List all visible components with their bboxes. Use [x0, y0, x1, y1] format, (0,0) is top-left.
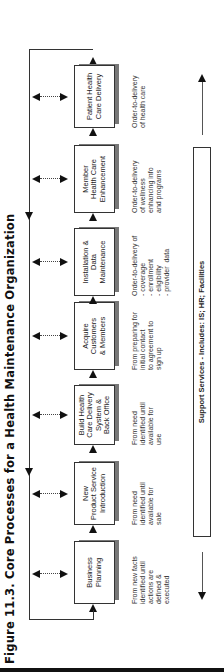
flow-arrow-icon [89, 370, 97, 378]
process-description: From need identified until available for… [131, 482, 163, 525]
support-left-arrow-line [202, 552, 203, 592]
flow-arrow-icon [89, 525, 97, 533]
feedback-loop-top [29, 49, 30, 620]
process-description: From new facts identified until actions … [131, 556, 171, 604]
support-services-box: Support Services - Includes: IS; HR; Fac… [193, 147, 211, 537]
process-description: Order-to-delivery of wellness enhancing … [131, 160, 163, 213]
support-right-arrow-icon [198, 74, 206, 82]
loop-entry-line [93, 610, 94, 620]
process-patient-health-care-delivery: Patient HealthCare Delivery [74, 65, 115, 128]
diagram-canvas: Figure 11.3. Core Processes for a Health… [0, 0, 224, 672]
process-description: From preparing for initial contact to ag… [131, 312, 163, 370]
process-build-health-care-delivery: Build HealthCare DeliverySystem &Back Of… [74, 385, 115, 445]
loop-direction-arrow-icon [25, 468, 33, 476]
feedback-loop-left [29, 619, 93, 620]
process-description: Order-to-delivery of health care [131, 75, 147, 128]
flow-arrow-icon [89, 128, 97, 136]
process-installation-data-maintenance: Installation &DataMaintenance [74, 228, 115, 296]
process-description: Order-to-delivery of - coverage - enroll… [131, 236, 171, 296]
process-new-product-service-introduction: NewProduct ServiceIntroduction [74, 462, 115, 525]
support-right-arrow-line [202, 80, 203, 135]
loop-direction-arrow-icon [25, 212, 33, 220]
process-acquire-customers-members: AcquireCustomers& Members [74, 302, 115, 370]
flow-arrow-icon [89, 213, 97, 221]
process-member-health-care-enhancement: MemberHealth CareEnhancement [74, 145, 115, 213]
page-rule [0, 668, 224, 672]
flow-arrow-icon [89, 296, 97, 304]
feedback-loop-right [29, 49, 93, 50]
support-left-arrow-icon [198, 592, 206, 600]
process-business-planning: BusinessPlanning [74, 541, 115, 604]
figure-title: Figure 11.3. Core Processes for a Health… [3, 4, 17, 664]
flow-arrow-icon [89, 445, 97, 453]
process-description: From need identified until available for… [131, 402, 163, 445]
